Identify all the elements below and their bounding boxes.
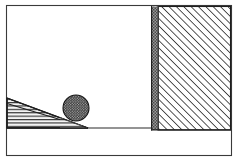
fixed-wall-block (151, 6, 231, 130)
figure-root: Ball resting against inclined wedge besi… (0, 0, 237, 161)
physics-diagram (0, 0, 237, 161)
ball-fill (63, 95, 89, 121)
wall-edge-band (152, 7, 159, 131)
sphere (63, 95, 89, 121)
wall-hatch-area (158, 7, 231, 131)
